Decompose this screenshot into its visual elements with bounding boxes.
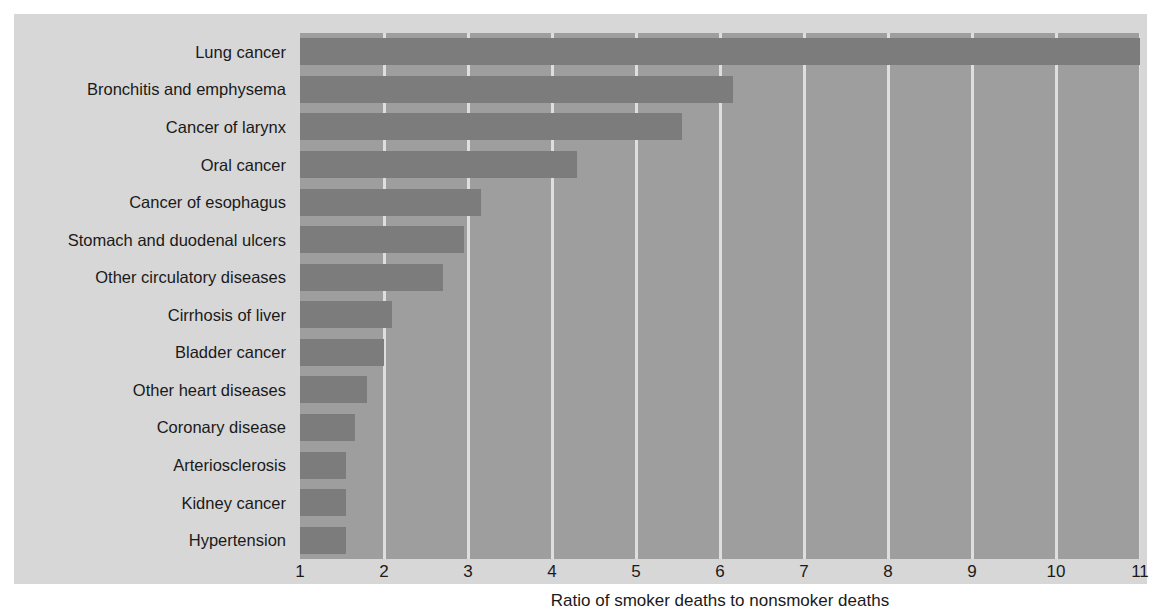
x-tick-label: 1 [295,563,304,580]
category-label: Coronary disease [157,419,286,436]
bar-row [300,339,1140,366]
category-label: Hypertension [189,532,286,549]
bar-row [300,226,1140,253]
category-label: Lung cancer [195,44,286,61]
gridline [1139,33,1141,559]
category-label: Cancer of larynx [166,119,286,136]
bar-row [300,376,1140,403]
category-axis-labels: Lung cancerBronchitis and emphysemaCance… [14,33,294,559]
bar-row [300,38,1140,65]
bar-row [300,452,1140,479]
x-tick-label: 3 [463,563,472,580]
bar[interactable] [300,38,1140,65]
bar[interactable] [300,113,682,140]
bar[interactable] [300,339,384,366]
bar[interactable] [300,264,443,291]
gridline [887,33,890,559]
x-tick-label: 7 [799,563,808,580]
bar[interactable] [300,189,481,216]
x-axis-title: Ratio of smoker deaths to nonsmoker deat… [300,592,1140,609]
gridline [971,33,974,559]
bar[interactable] [300,301,392,328]
category-label: Cancer of esophagus [129,194,286,211]
bar-row [300,76,1140,103]
x-axis-tick-labels: 1234567891011 [300,563,1140,589]
category-label: Kidney cancer [181,495,286,512]
gridline [467,33,470,559]
gridline [551,33,554,559]
x-tick-label: 6 [715,563,724,580]
bar-row [300,301,1140,328]
bar[interactable] [300,527,346,554]
bar-row [300,264,1140,291]
bar[interactable] [300,151,577,178]
x-tick-label: 8 [883,563,892,580]
bar[interactable] [300,226,464,253]
bar-row [300,489,1140,516]
bar-row [300,527,1140,554]
bar-row [300,189,1140,216]
category-label: Stomach and duodenal ulcers [68,232,286,249]
x-tick-label: 2 [379,563,388,580]
x-tick-label: 11 [1131,563,1149,580]
category-label: Oral cancer [201,157,286,174]
bar[interactable] [300,489,346,516]
bar-row [300,151,1140,178]
x-tick-label: 10 [1047,563,1066,580]
chart-figure: Lung cancerBronchitis and emphysemaCance… [14,14,1147,584]
category-label: Bladder cancer [175,344,286,361]
gridline [1055,33,1058,559]
x-tick-label: 9 [967,563,976,580]
bar[interactable] [300,376,367,403]
bar-row [300,113,1140,140]
x-tick-label: 5 [631,563,640,580]
bar[interactable] [300,414,355,441]
bar-row [300,414,1140,441]
x-tick-label: 4 [547,563,556,580]
category-label: Cirrhosis of liver [168,307,286,324]
bar[interactable] [300,76,733,103]
plot-area [300,33,1140,559]
category-label: Arteriosclerosis [173,457,286,474]
category-label: Bronchitis and emphysema [87,81,286,98]
gridline [383,33,386,559]
bar[interactable] [300,452,346,479]
gridline [719,33,722,559]
category-label: Other heart diseases [133,382,286,399]
gridline [635,33,638,559]
category-label: Other circulatory diseases [95,269,286,286]
gridline [803,33,806,559]
